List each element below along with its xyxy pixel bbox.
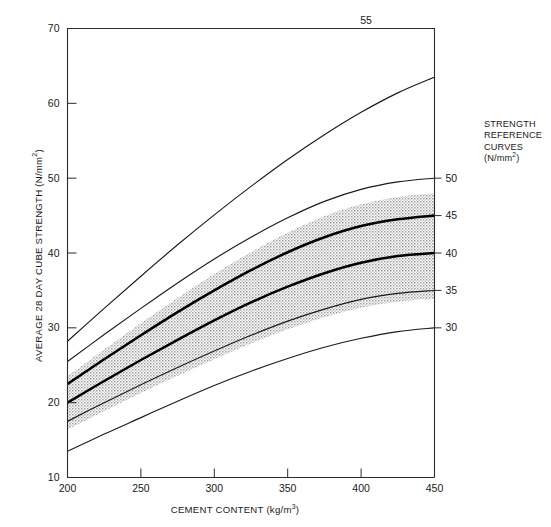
legend-units-tail: ) [516,153,519,163]
y-axis-title-sup: 2 [31,153,38,157]
x-tick-label-250: 250 [132,482,150,494]
x-tick-label-450: 450 [426,482,444,494]
x-tick-label-300: 300 [206,482,224,494]
legend-line-2: REFERENCE [484,130,548,141]
y-tick-label-50: 50 [48,172,60,184]
x-axis-title: CEMENT CONTENT (kg/m3) [0,504,470,515]
right-curve-label-45: 45 [446,209,458,221]
y-axis-title-tail: ) [33,149,44,152]
right-curve-label-50: 50 [446,172,458,184]
x-axis-title-main: CEMENT CONTENT (kg/m [171,504,292,515]
x-tick-label-200: 200 [59,482,77,494]
y-axis-title-main: AVERAGE 28 DAY CUBE STRENGTH (N/mm [33,157,44,362]
chart-plot: 10203040506070 200250300350400450 504540… [0,0,551,527]
chart-figure: 10203040506070 200250300350400450 504540… [0,0,551,527]
legend: STRENGTH REFERENCE CURVES (N/mm2) [484,119,548,165]
right-curve-label-35: 35 [446,284,458,296]
x-tick-label-400: 400 [352,482,370,494]
y-tick-label-30: 30 [48,321,60,333]
right-curve-label-30: 30 [446,321,458,333]
x-axis-ticks: 200250300350400450 [59,469,444,494]
legend-units-main: (N/mm [484,153,512,163]
right-axis-curve-labels: 5045403530 [435,172,458,334]
y-axis-title: AVERAGE 28 DAY CUBE STRENGTH (N/mm2) [33,136,44,376]
x-tick-label-350: 350 [279,482,297,494]
y-tick-label-60: 60 [48,97,60,109]
y-tick-label-70: 70 [48,22,60,34]
legend-line-1: STRENGTH [484,119,548,130]
y-tick-label-20: 20 [48,396,60,408]
y-tick-label-40: 40 [48,247,60,259]
right-curve-label-40: 40 [446,247,458,259]
x-axis-title-tail: ) [296,504,299,515]
legend-line-4: (N/mm2) [484,153,548,164]
curve-label-55: 55 [360,14,372,26]
